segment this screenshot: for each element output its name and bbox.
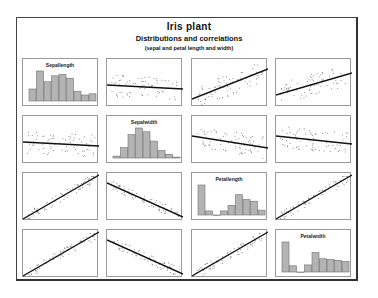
scatter-sepalwidth-vs-petallength	[191, 115, 267, 163]
chart-title: Iris plant	[0, 21, 378, 32]
scatter-petalwidth-vs-sepalwidth	[106, 229, 182, 277]
histogram-sepallength: Sepallength	[22, 58, 98, 106]
scatter-petalwidth-vs-petallength	[191, 229, 267, 277]
scatter-petallength-vs-sepallength	[22, 172, 98, 220]
scatter-sepallength-vs-sepalwidth	[106, 58, 182, 106]
histogram-petallength: Petallength	[191, 172, 267, 220]
scatter-sepalwidth-vs-sepallength	[22, 115, 98, 163]
scatter-petallength-vs-petalwidth	[275, 172, 351, 220]
histogram-label: Petalwidth	[276, 233, 350, 239]
scatter-petalwidth-vs-sepallength	[22, 229, 98, 277]
histogram-sepalwidth: Sepalwidth	[106, 115, 182, 163]
histogram-petalwidth: Petalwidth	[275, 229, 351, 277]
scatter-petallength-vs-sepalwidth	[106, 172, 182, 220]
histogram-label: Sepalwidth	[107, 119, 181, 125]
scatter-sepalwidth-vs-petalwidth	[275, 115, 351, 163]
scatter-sepallength-vs-petalwidth	[275, 58, 351, 106]
chart-subtitle: Distributions and correlations	[0, 34, 378, 43]
chart-caption: (sepal and petal length and width)	[0, 45, 378, 51]
histogram-label: Petallength	[192, 176, 266, 182]
scatter-sepallength-vs-petallength	[191, 58, 267, 106]
histogram-label: Sepallength	[23, 62, 97, 68]
